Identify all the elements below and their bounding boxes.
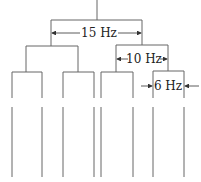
coupling-label-10hz: 10 Hz bbox=[126, 52, 162, 66]
coupling-label-15hz: 15 Hz bbox=[81, 26, 117, 40]
tree-lines: 15 Hz 10 Hz 6 Hz bbox=[0, 0, 201, 182]
coupling-label-6hz: 6 Hz bbox=[154, 79, 182, 93]
splitting-tree-diagram: 15 Hz 10 Hz 6 Hz bbox=[0, 0, 201, 182]
